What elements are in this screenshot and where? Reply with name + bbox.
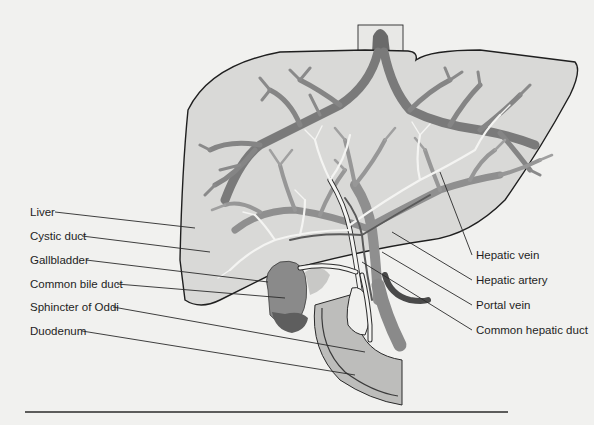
label-hepatic-vein: Hepatic vein	[476, 249, 539, 261]
label-common-bile-duct: Common bile duct	[30, 278, 123, 290]
label-duodenum: Duodenum	[30, 325, 86, 337]
label-cystic-duct: Cystic duct	[30, 230, 87, 242]
liver-anatomy-diagram: Liver Cystic duct Gallbladder Common bil…	[0, 0, 594, 425]
label-common-hepatic-duct: Common hepatic duct	[476, 324, 589, 336]
label-gallbladder: Gallbladder	[30, 254, 89, 266]
label-hepatic-artery: Hepatic artery	[476, 274, 548, 286]
hepatic-artery-trunk	[385, 275, 428, 301]
label-portal-vein: Portal vein	[476, 299, 530, 311]
label-sphincter-of-oddi: Sphincter of Oddi	[30, 301, 119, 313]
label-liver: Liver	[30, 206, 55, 218]
